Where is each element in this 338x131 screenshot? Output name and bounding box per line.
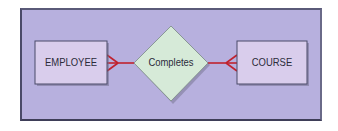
connector-completes-course <box>208 55 237 71</box>
entity-course-label: COURSE <box>241 56 304 68</box>
relationship-completes-label: Completes <box>138 56 205 68</box>
entity-employee-label: EMPLOYEE <box>39 56 104 68</box>
connector-employee-completes <box>107 55 134 71</box>
